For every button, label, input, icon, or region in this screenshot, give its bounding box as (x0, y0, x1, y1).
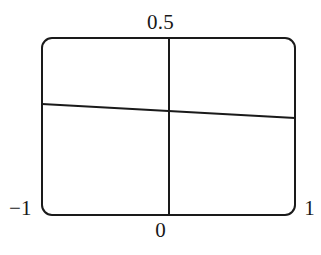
x-axis-max-label: 1 (304, 198, 315, 219)
plot-canvas (0, 0, 321, 255)
x-axis-min-label: −1 (9, 198, 32, 219)
line-plot-figure: 0.5 0 −1 1 (0, 0, 321, 255)
y-axis-max-label: 0.5 (0, 12, 321, 33)
x-axis-zero-label: 0 (0, 220, 321, 241)
